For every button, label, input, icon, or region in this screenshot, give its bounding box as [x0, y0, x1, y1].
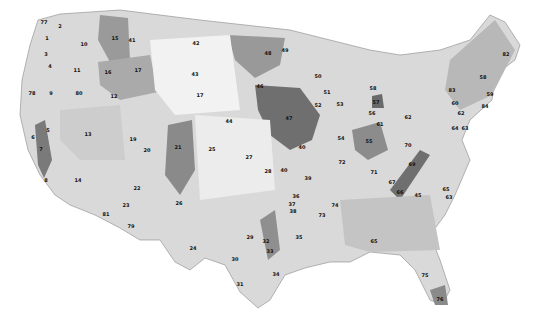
region-label: 58	[370, 86, 377, 91]
region-label: 60	[452, 101, 459, 106]
region-label: 71	[371, 170, 378, 175]
region-label: 10	[81, 42, 88, 47]
region-label: 21	[175, 145, 182, 150]
region-label: 42	[193, 41, 200, 46]
region-label: 80	[76, 91, 83, 96]
region-label: 51	[324, 90, 331, 95]
region-label: 15	[112, 36, 119, 41]
region-label: 44	[226, 119, 233, 124]
region-label: 16	[105, 70, 112, 75]
region-label: 79	[128, 224, 135, 229]
region-label: 32	[263, 239, 270, 244]
region-label: 40	[281, 168, 288, 173]
region-label: 83	[449, 88, 456, 93]
region-label: 17	[197, 93, 204, 98]
region-label: 47	[286, 116, 293, 121]
region-label: 62	[405, 115, 412, 120]
region-label: 23	[123, 203, 130, 208]
region-label: 41	[129, 38, 136, 43]
region-label: 17	[135, 68, 142, 73]
region-label: 56	[369, 111, 376, 116]
region-label: 5	[46, 128, 49, 133]
region-label: 78	[29, 91, 36, 96]
region-label: 52	[315, 103, 322, 108]
region-label: 27	[246, 155, 253, 160]
region-label: 40	[299, 145, 306, 150]
region-label: 31	[237, 282, 244, 287]
region-label: 48	[265, 51, 272, 56]
region-label: 28	[265, 169, 272, 174]
region-label: 57	[373, 100, 380, 105]
region-25-27	[195, 115, 275, 200]
region-label: 62	[458, 111, 465, 116]
region-label: 81	[103, 212, 110, 217]
region-label: 54	[338, 136, 345, 141]
region-label: 19	[130, 137, 137, 142]
region-label: 73	[319, 213, 326, 218]
region-label: 38	[290, 209, 297, 214]
region-label: 9	[49, 91, 52, 96]
region-label: 77	[41, 20, 48, 25]
region-label: 30	[232, 257, 239, 262]
region-label: 61	[377, 122, 384, 127]
region-label: 69	[409, 162, 416, 167]
region-label: 6	[31, 135, 34, 140]
region-label: 72	[339, 160, 346, 165]
region-label: 25	[209, 147, 216, 152]
region-label: 67	[389, 180, 396, 185]
region-label: 34	[273, 272, 280, 277]
region-label: 26	[176, 201, 183, 206]
region-label: 65	[371, 239, 378, 244]
region-label: 66	[397, 190, 404, 195]
region-label: 2	[58, 24, 61, 29]
region-label: 74	[332, 203, 339, 208]
region-label: 65	[443, 187, 450, 192]
region-label: 4	[48, 64, 51, 69]
region-label: 82	[503, 52, 510, 57]
region-label: 70	[405, 143, 412, 148]
region-label: 7	[39, 147, 42, 152]
region-label: 12	[111, 94, 118, 99]
region-label: 33	[267, 249, 274, 254]
region-label: 49	[282, 48, 289, 53]
region-label: 63	[446, 195, 453, 200]
region-label: 24	[190, 246, 197, 251]
region-label: 58	[480, 75, 487, 80]
region-label: 76	[437, 297, 444, 302]
region-label: 64	[452, 126, 459, 131]
region-label: 8	[44, 178, 47, 183]
region-label: 37	[289, 202, 296, 207]
region-label: 46	[257, 84, 264, 89]
region-label: 39	[305, 176, 312, 181]
region-65	[340, 195, 440, 252]
region-label: 50	[315, 74, 322, 79]
region-label: 1	[45, 36, 48, 41]
region-label: 63	[462, 126, 469, 131]
region-label: 13	[85, 132, 92, 137]
region-label: 43	[192, 72, 199, 77]
region-label: 22	[134, 186, 141, 191]
region-label: 20	[144, 148, 151, 153]
region-label: 3	[44, 52, 47, 57]
region-label: 14	[75, 178, 82, 183]
region-label: 29	[247, 235, 254, 240]
region-label: 53	[337, 102, 344, 107]
region-label: 75	[422, 273, 429, 278]
region-label: 11	[74, 68, 81, 73]
region-label: 84	[482, 104, 489, 109]
region-label: 36	[293, 194, 300, 199]
region-label: 45	[415, 193, 422, 198]
region-label: 55	[366, 139, 373, 144]
region-label: 59	[487, 92, 494, 97]
region-label: 35	[296, 235, 303, 240]
